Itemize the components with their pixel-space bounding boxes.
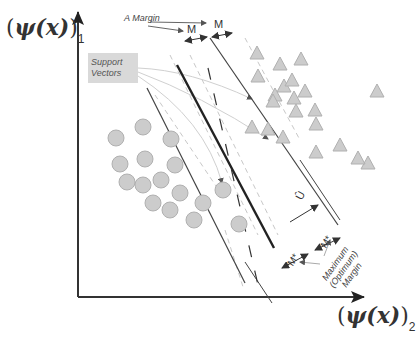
class-triangles <box>245 46 384 169</box>
circle-point <box>186 212 202 228</box>
alternative-hyperplane <box>208 68 258 285</box>
circle-point <box>167 157 183 173</box>
circle-point <box>231 216 247 232</box>
triangle-point <box>245 120 259 133</box>
y-label-subscript: 1 <box>78 32 85 46</box>
triangle-point <box>370 84 384 97</box>
m-label-left: M <box>187 23 196 35</box>
triangle-point <box>273 57 287 70</box>
triangle-point <box>285 73 299 86</box>
circle-point <box>112 156 128 172</box>
x-label-close-paren: ) <box>400 303 409 328</box>
triangle-point <box>294 52 308 65</box>
circle-point <box>172 185 188 201</box>
circle-point <box>215 182 231 198</box>
circle-point <box>153 172 169 188</box>
circle-point <box>163 131 179 147</box>
m-label-right: M <box>214 18 223 30</box>
triangle-point <box>250 46 264 59</box>
triangle-point <box>308 103 322 116</box>
circle-point <box>135 119 151 135</box>
y-axis-label: (ψ(x))1 <box>6 14 85 46</box>
triangle-point <box>261 122 275 135</box>
y-label-symbol: ψ(x) <box>15 14 70 40</box>
circle-point <box>145 195 161 211</box>
y-label-close-paren: ) <box>69 15 78 40</box>
triangle-point <box>351 151 365 164</box>
margin-line-right <box>210 38 338 225</box>
triangle-point <box>289 104 303 117</box>
circle-point <box>108 130 124 146</box>
circle-point <box>119 174 135 190</box>
a-margin-label: A Margin <box>124 13 160 23</box>
x-label-open-paren: ( <box>337 303 346 328</box>
support-vectors-label: Support Vectors <box>88 53 138 83</box>
x-label-symbol: ψ(x) <box>346 302 401 328</box>
triangle-point <box>309 117 323 130</box>
support-vectors-line2: Vectors <box>91 68 135 79</box>
triangle-point <box>309 145 323 158</box>
y-label-open-paren: ( <box>6 15 15 40</box>
circle-point <box>162 202 178 218</box>
circle-point <box>135 177 151 193</box>
class-circles <box>108 119 247 232</box>
support-vectors-line1: Support <box>91 57 135 68</box>
margin-line-right-ext <box>300 160 340 220</box>
triangle-point <box>298 84 312 97</box>
circle-point <box>195 195 211 211</box>
x-label-subscript: 2 <box>409 320 416 334</box>
x-axis-label: (ψ(x))2 <box>337 302 416 334</box>
triangle-point <box>333 138 347 151</box>
circle-point <box>137 151 153 167</box>
